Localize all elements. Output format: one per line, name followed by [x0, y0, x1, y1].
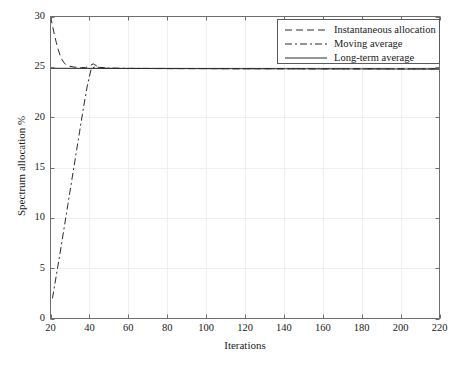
legend-label: Long-term average — [334, 53, 414, 64]
x-tick-label: 20 — [35, 323, 67, 334]
series-line-3 — [51, 68, 440, 69]
legend-line-sample — [283, 37, 329, 51]
y-tick-label: 5 — [20, 263, 45, 274]
legend-item: Moving average — [278, 37, 439, 51]
x-tick-label: 160 — [307, 323, 339, 334]
x-axis-title: Iterations — [185, 340, 305, 351]
x-tick-label: 180 — [346, 323, 378, 334]
x-tick-label: 40 — [73, 323, 105, 334]
x-tick-label: 200 — [385, 323, 417, 334]
legend-line-sample — [283, 23, 329, 37]
x-tick-label: 220 — [424, 323, 456, 334]
legend-line-sample — [283, 51, 329, 65]
chart-figure: 051015202530 204060801001201401601802002… — [0, 0, 456, 366]
x-tick-label: 140 — [268, 323, 300, 334]
x-tick-label: 120 — [229, 323, 261, 334]
y-axis-title: Spectrum allocation % — [16, 115, 27, 215]
y-tick-label: 30 — [20, 11, 45, 22]
x-tick-label: 80 — [151, 323, 183, 334]
chart-legend: Instantaneous allocationMoving averageLo… — [277, 19, 440, 64]
x-tick-label: 100 — [190, 323, 222, 334]
legend-label: Instantaneous allocation — [334, 25, 436, 36]
legend-label: Moving average — [334, 39, 403, 50]
legend-item: Long-term average — [278, 51, 439, 65]
legend-item: Instantaneous allocation — [278, 23, 439, 37]
y-tick-label: 25 — [20, 61, 45, 72]
x-tick-label: 60 — [112, 323, 144, 334]
